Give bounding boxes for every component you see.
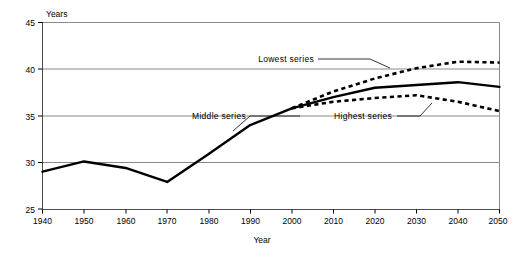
x-tick-label-2010: 2010: [324, 216, 343, 226]
y-tick-label-25: 25: [26, 205, 36, 215]
x-tick-marks: [43, 210, 500, 214]
x-tick-label-2000: 2000: [283, 216, 302, 226]
leader-line-lowest-2: [370, 59, 390, 68]
annotation-lowest-series: Lowest series: [258, 54, 314, 64]
x-tick-label-1960: 1960: [117, 216, 136, 226]
y-tick-label-45: 45: [26, 18, 36, 28]
y-axis-title: Years: [46, 9, 67, 19]
series-line-highest: [292, 95, 500, 111]
leader-line-highest-2: [420, 103, 432, 116]
x-tick-labels: 1940 1950 1960 1970 1980 1990 2000 2010 …: [33, 216, 508, 226]
x-tick-label-1950: 1950: [75, 216, 94, 226]
annotation-middle-series: Middle series: [192, 111, 246, 121]
data-series: [43, 62, 500, 182]
x-tick-label-1940: 1940: [33, 216, 52, 226]
x-tick-label-2050: 2050: [489, 216, 508, 226]
line-chart: 45 40 35 30 25 1940 1950 1960 1970 1980 …: [0, 0, 525, 254]
y-tick-label-30: 30: [26, 158, 36, 168]
x-tick-label-1990: 1990: [241, 216, 260, 226]
y-tick-label-35: 35: [26, 112, 36, 122]
y-tick-label-40: 40: [26, 65, 36, 75]
y-tick-labels: 45 40 35 30 25: [26, 18, 36, 215]
y-tick-marks: [38, 23, 43, 210]
chart-container: 45 40 35 30 25 1940 1950 1960 1970 1980 …: [0, 0, 525, 254]
x-axis-title: Year: [253, 235, 270, 245]
gridlines: [42, 23, 500, 163]
x-tick-label-2020: 2020: [366, 216, 385, 226]
annotation-highest-series: Highest series: [334, 111, 392, 121]
annotation-labels: Lowest series Middle series Highest seri…: [192, 54, 392, 121]
x-tick-label-1970: 1970: [158, 216, 177, 226]
x-tick-label-2040: 2040: [449, 216, 468, 226]
x-tick-label-2030: 2030: [407, 216, 426, 226]
x-tick-label-1980: 1980: [200, 216, 219, 226]
